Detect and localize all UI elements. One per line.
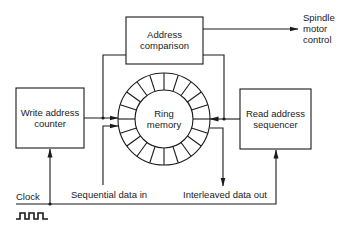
- ring-segment-divider: [127, 136, 141, 146]
- ring-segment-divider: [192, 105, 208, 110]
- label-line: comparison: [126, 40, 203, 51]
- ring-segment-divider: [137, 142, 147, 156]
- data-out-label: Interleaved data out: [183, 189, 267, 200]
- label-line: Address: [126, 29, 203, 40]
- ring-segment-divider: [150, 147, 155, 163]
- label-line: motor: [303, 23, 335, 34]
- label-line: Read address: [240, 108, 311, 119]
- data-out-arrow: [210, 128, 223, 186]
- read-feedback-line: [203, 55, 224, 119]
- ring-segment-divider: [173, 75, 178, 91]
- clock-waveform-icon: [16, 213, 48, 219]
- spindle-motor-control-label: Spindle motor control: [303, 12, 335, 45]
- ring-segment-divider: [150, 75, 155, 91]
- label-line: Ring: [134, 108, 194, 119]
- junction-dot: [222, 117, 225, 120]
- data-in-label: Sequential data in: [71, 189, 147, 200]
- label-line: Spindle: [303, 12, 335, 23]
- address-comparison-label: Address comparison: [126, 29, 203, 51]
- clock-label: Clock: [16, 191, 40, 202]
- label-line: Write address: [16, 107, 84, 118]
- ring-segment-divider: [127, 92, 141, 102]
- label-line: sequencer: [240, 119, 311, 130]
- ring-segment-divider: [181, 82, 191, 96]
- ring-segment-divider: [187, 136, 201, 146]
- read-address-sequencer-label: Read address sequencer: [240, 108, 311, 130]
- ring-segment-divider: [137, 82, 147, 96]
- junction-dot: [101, 116, 104, 119]
- ring-segment-divider: [173, 147, 178, 163]
- write-address-counter-label: Write address counter: [16, 107, 84, 129]
- ring-memory-label: Ring memory: [134, 108, 194, 130]
- label-line: memory: [134, 119, 194, 130]
- ring-segment-divider: [181, 142, 191, 156]
- write-feedback-line: [103, 55, 126, 118]
- label-line: control: [303, 34, 335, 45]
- junction-dot: [48, 202, 51, 205]
- label-line: counter: [16, 118, 84, 129]
- ring-segment-divider: [192, 128, 208, 133]
- data-in-arrow: [103, 126, 118, 185]
- ring-segment-divider: [187, 92, 201, 102]
